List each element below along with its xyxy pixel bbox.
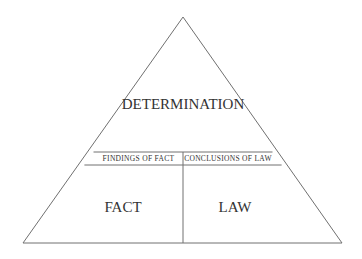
findings-of-fact-label: FINDINGS OF FACT bbox=[94, 153, 183, 164]
determination-label: DETERMINATION bbox=[113, 96, 253, 113]
fact-label: FACT bbox=[93, 199, 153, 216]
law-label: LAW bbox=[205, 199, 265, 216]
pyramid-diagram: DETERMINATION FINDINGS OF FACT CONCLUSIO… bbox=[0, 0, 362, 259]
conclusions-of-law-label: CONCLUSIONS OF LAW bbox=[183, 153, 273, 164]
pyramid-shape bbox=[0, 0, 362, 259]
